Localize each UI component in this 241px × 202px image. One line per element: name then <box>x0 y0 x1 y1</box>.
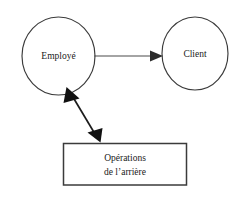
node-employe[interactable]: Employé <box>22 17 95 95</box>
flow-diagram: Employé Client Opérations de l’arrière <box>0 0 241 202</box>
arrowhead-right-icon <box>150 51 163 62</box>
operations-label-line1: Opérations <box>104 153 146 163</box>
connector-employe-to-operations[interactable] <box>64 87 103 143</box>
arrowhead-downright-icon <box>88 128 103 143</box>
connector-employe-to-client[interactable] <box>94 51 163 62</box>
operations-rect-shape <box>64 144 187 186</box>
node-operations[interactable]: Opérations de l’arrière <box>64 144 187 186</box>
operations-label-line2: de l’arrière <box>104 167 146 177</box>
connector-line-diagonal <box>72 96 95 135</box>
diagram-canvas: Employé Client Opérations de l’arrière <box>0 0 241 202</box>
node-client[interactable]: Client <box>162 17 228 90</box>
employe-label: Employé <box>41 51 75 61</box>
client-label: Client <box>183 49 207 59</box>
